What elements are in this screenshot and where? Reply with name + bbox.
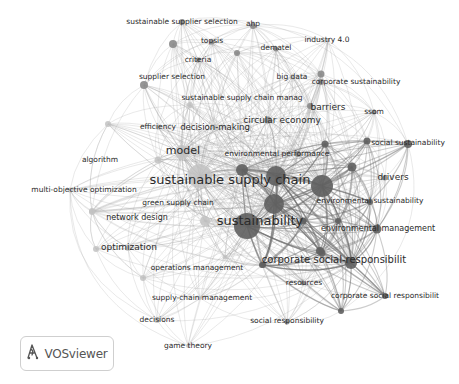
label-green-supply-chain[interactable]: green supply chain — [142, 198, 214, 207]
label-circular-economy[interactable]: circular economy — [243, 115, 321, 125]
label-sustainable-supply-chain[interactable]: sustainable supply chain — [150, 172, 311, 187]
label-optimization[interactable]: optimization — [101, 242, 157, 252]
label-decision-making[interactable]: decision-making — [180, 122, 250, 132]
label-algorithm[interactable]: algorithm — [82, 155, 118, 164]
label-industry-4-0[interactable]: industry 4.0 — [304, 35, 349, 44]
edge — [128, 248, 157, 320]
node-algorithm[interactable] — [155, 157, 162, 164]
node-node-circ-below[interactable] — [322, 141, 329, 148]
node-node-opt-left[interactable] — [93, 246, 99, 252]
label-environmental-performance[interactable]: environmental performance — [225, 149, 330, 158]
node-node-c4[interactable] — [264, 194, 284, 214]
node-supplier-selection[interactable] — [140, 81, 148, 89]
label-barriers[interactable]: barriers — [311, 102, 346, 112]
node-node-sus-left[interactable] — [200, 216, 210, 226]
label-multi-objective-optimization[interactable]: multi-objective optimization — [31, 185, 137, 194]
label-ahp[interactable]: ahp — [246, 19, 260, 28]
edge — [188, 263, 351, 346]
label-environmental-sustainability[interactable]: environmental sustainability — [317, 196, 424, 205]
label-network-design[interactable]: network design — [106, 213, 168, 222]
node-node-csr2-left[interactable] — [338, 308, 344, 314]
vosviewer-logo-text: VOSviewer — [44, 347, 107, 361]
node-node-opt-right[interactable] — [223, 255, 228, 260]
node-operations-management[interactable] — [140, 275, 146, 281]
label-decisions[interactable]: decisions — [140, 315, 175, 324]
label-corporate-sustainability[interactable]: corporate sustainability — [312, 77, 401, 86]
label-drivers[interactable]: drivers — [377, 172, 408, 182]
network-map[interactable]: sustainable supplier selectionahptopsisd… — [0, 0, 459, 384]
node-node-c3[interactable] — [311, 175, 333, 197]
node-node-eff-left[interactable] — [105, 121, 111, 127]
vosviewer-logo: VOSviewer — [20, 336, 114, 371]
label-environmental-management[interactable]: environmental management — [321, 224, 435, 233]
node-node-topsis-right[interactable] — [234, 50, 240, 56]
label-social-responsibility[interactable]: social responsibility — [250, 316, 324, 325]
node-node-ss-left[interactable] — [169, 40, 177, 48]
label-criteria[interactable]: criteria — [185, 55, 212, 64]
label-corporate-social-responsibilit[interactable]: corporate social-responsibilit — [262, 254, 407, 265]
label-operations-management[interactable]: operations management — [151, 263, 244, 272]
label-social-sustainability[interactable]: social sustainability — [371, 138, 445, 147]
label-game-theory[interactable]: game theory — [164, 341, 213, 350]
label-resources[interactable]: resources — [286, 278, 322, 287]
label-corporate-social-responsibilit[interactable]: corporate social responsibilit — [331, 291, 439, 300]
edge — [108, 85, 144, 124]
label-ssom[interactable]: ssom — [364, 107, 384, 116]
vosviewer-logo-icon — [26, 344, 40, 364]
label-dematel[interactable]: dematel — [261, 43, 292, 52]
label-big-data[interactable]: big data — [277, 72, 308, 81]
label-supplier-selection[interactable]: supplier selection — [139, 72, 205, 81]
edge — [96, 249, 157, 320]
label-efficiency[interactable]: efficiency — [140, 122, 177, 131]
label-sustainable-supply-chain-manag[interactable]: sustainable supply chain manag — [181, 93, 302, 102]
node-node-socsus-left[interactable] — [364, 138, 371, 145]
label-sustainable-supplier-selection[interactable]: sustainable supplier selection — [126, 17, 238, 26]
label-sustainability[interactable]: sustainability — [217, 213, 304, 228]
label-topsis[interactable]: topsis — [201, 36, 223, 45]
label-supply-chain-management[interactable]: supply-chain management — [152, 293, 252, 302]
label-model[interactable]: model — [166, 144, 200, 157]
node-node-nd-left[interactable] — [89, 209, 95, 215]
node-sustainable-supply-chain-manag[interactable] — [187, 102, 193, 108]
node-node-envperf-right[interactable] — [348, 163, 357, 172]
